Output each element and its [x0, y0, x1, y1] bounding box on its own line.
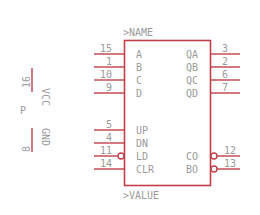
svg-text:14: 14 [100, 158, 112, 169]
svg-text:1: 1 [106, 56, 112, 67]
svg-text:13: 13 [224, 158, 236, 169]
svg-text:2: 2 [222, 56, 228, 67]
svg-text:7: 7 [222, 82, 228, 93]
svg-text:CLR: CLR [136, 164, 155, 175]
svg-text:BO: BO [186, 164, 198, 175]
svg-text:VCC: VCC [40, 88, 51, 106]
svg-text:QA: QA [186, 49, 198, 60]
left-pin-names: A B C D UP DN LD CLR [136, 49, 155, 175]
svg-text:10: 10 [100, 69, 112, 80]
svg-text:A: A [136, 49, 142, 60]
svg-text:5: 5 [106, 119, 112, 130]
svg-text:DN: DN [136, 138, 148, 149]
svg-text:12: 12 [224, 145, 236, 156]
svg-text:4: 4 [106, 132, 112, 143]
right-pin-names: QA QB QC QD CO BO [186, 49, 198, 175]
svg-text:8: 8 [21, 146, 32, 152]
svg-text:3: 3 [222, 43, 228, 54]
value-label: >VALUE [123, 190, 159, 201]
svg-text:B: B [136, 62, 142, 73]
svg-text:UP: UP [136, 125, 148, 136]
svg-text:D: D [136, 88, 142, 99]
svg-text:LD: LD [136, 151, 148, 162]
schematic-canvas: >NAME >VALUE 15 1 10 9 5 4 11 14 A B [0, 0, 260, 215]
svg-text:11: 11 [100, 145, 112, 156]
part-label: P [20, 105, 26, 116]
svg-text:QC: QC [186, 75, 198, 86]
svg-text:GND: GND [40, 128, 51, 146]
svg-text:CO: CO [186, 151, 198, 162]
svg-text:QB: QB [186, 62, 198, 73]
name-label: >NAME [123, 27, 153, 38]
svg-text:9: 9 [106, 82, 112, 93]
left-pin-numbers: 15 1 10 9 5 4 11 14 [100, 43, 112, 169]
svg-text:6: 6 [222, 69, 228, 80]
svg-text:15: 15 [100, 43, 112, 54]
right-pin-numbers: 3 2 6 7 12 13 [222, 43, 236, 169]
svg-text:16: 16 [21, 76, 32, 88]
svg-text:QD: QD [186, 88, 198, 99]
power-pins: 16 VCC P 8 GND [20, 68, 51, 152]
svg-text:C: C [136, 75, 142, 86]
